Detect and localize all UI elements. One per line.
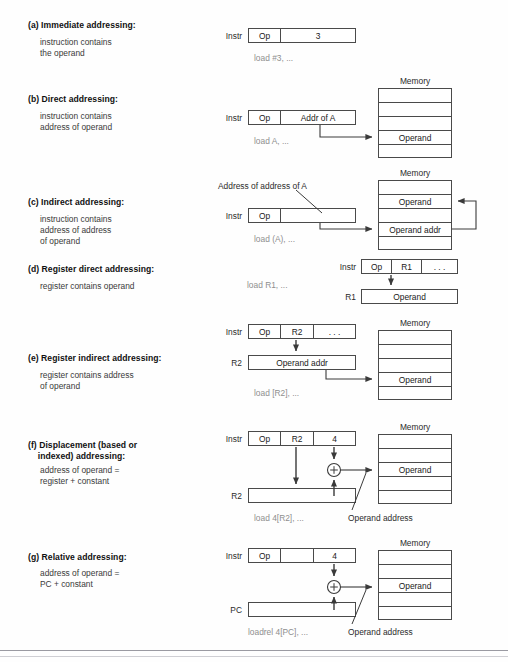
section-f-desc-line-2: register + constant bbox=[40, 476, 109, 487]
section-a-instr-label: Instr bbox=[198, 31, 242, 41]
section-d-code: load R1, ... bbox=[247, 280, 288, 290]
section-g-instr-label: Instr bbox=[198, 551, 242, 561]
section-g-register-box bbox=[248, 602, 356, 617]
section-g-memory-row-1 bbox=[379, 551, 451, 565]
section-c-callout-label: Address of address of A bbox=[218, 181, 307, 191]
section-e-title: (e) Register indirect addressing: bbox=[28, 353, 161, 364]
section-c-memory-row-1 bbox=[379, 181, 451, 195]
section-f-memory-box: Operand bbox=[378, 434, 452, 504]
section-b-instr-cell-op: Op bbox=[249, 111, 281, 124]
section-d-register-label: R1 bbox=[316, 292, 356, 302]
section-c-instr-cell-op: Op bbox=[249, 209, 281, 222]
section-c-memory-row-operand: Operand bbox=[379, 195, 451, 209]
section-f-memory-row-4 bbox=[379, 477, 451, 491]
section-g-memory-row-operand: Operand bbox=[379, 579, 451, 593]
section-e-memory-row-2 bbox=[379, 345, 451, 359]
section-g-code: loadrel 4[PC], ... bbox=[248, 627, 308, 637]
section-f-memory-row-5 bbox=[379, 491, 451, 505]
section-d-instr-cell-op: Op bbox=[362, 260, 392, 273]
section-e-instr-cell-rest: . . . bbox=[314, 325, 355, 338]
section-f-instruction-box: Op R2 4 bbox=[248, 431, 356, 446]
section-c-memory-box: Operand Operand addr bbox=[378, 180, 452, 250]
section-g-desc-line-1: address of operand = bbox=[40, 568, 119, 579]
section-g-instr-cell-disp: 4 bbox=[314, 549, 355, 562]
section-b-arrow-to-operand bbox=[320, 125, 372, 137]
section-c-memory-caption: Memory bbox=[378, 168, 452, 178]
section-e-arrow-register-to-operand bbox=[326, 370, 372, 379]
section-c-instr-label: Instr bbox=[198, 211, 242, 221]
section-b-desc-line-1: instruction contains bbox=[40, 111, 112, 122]
section-b-desc-line-2: address of operand bbox=[40, 122, 112, 133]
section-e-memory-row-1 bbox=[379, 331, 451, 345]
section-b-memory-caption: Memory bbox=[378, 76, 452, 86]
section-f-memory-row-operand: Operand bbox=[379, 463, 451, 477]
section-f-instr-cell-op: Op bbox=[249, 432, 281, 445]
section-e-desc-line-1: register contains address bbox=[40, 370, 134, 381]
section-f-operand-address-annotation: Operand address bbox=[348, 513, 413, 523]
section-c-title: (c) Indirect addressing: bbox=[28, 197, 124, 208]
figure-canvas: (a) Immediate addressing: instruction co… bbox=[0, 0, 508, 662]
section-b-memory-row-3 bbox=[379, 117, 451, 131]
section-b-memory-row-5 bbox=[379, 145, 451, 159]
section-d-register-value: Operand bbox=[362, 290, 457, 303]
section-g-adder-circle bbox=[328, 581, 341, 594]
section-d-desc-line-1: register contains operand bbox=[40, 281, 135, 292]
section-a-desc-line-2: the operand bbox=[40, 48, 85, 59]
section-g-instr-cell-op: Op bbox=[249, 549, 281, 562]
section-f-memory-row-1 bbox=[379, 435, 451, 449]
section-e-register-box: Operand addr bbox=[248, 355, 356, 370]
section-c-arrow-operand-addr-to-operand bbox=[452, 201, 476, 229]
section-b-code: load A, ... bbox=[254, 136, 289, 146]
section-g-memory-box: Operand bbox=[378, 550, 452, 620]
section-a-instr-cell-imm: 3 bbox=[281, 29, 355, 42]
section-c-code: load (A), ... bbox=[254, 234, 295, 244]
section-e-memory-row-3 bbox=[379, 359, 451, 373]
section-a-title: (a) Immediate addressing: bbox=[28, 20, 136, 31]
section-f-desc-line-1: address of operand = bbox=[40, 465, 119, 476]
section-d-instr-cell-rest: . . . bbox=[422, 260, 457, 273]
section-a-instr-cell-op: Op bbox=[249, 29, 281, 42]
section-f-instr-label: Instr bbox=[198, 434, 242, 444]
section-e-memory-row-operand: Operand bbox=[379, 373, 451, 387]
section-f-title: (f) Displacement (based or indexed) addr… bbox=[28, 440, 137, 462]
section-g-register-value bbox=[249, 603, 355, 616]
section-g-memory-caption: Memory bbox=[378, 538, 452, 548]
section-c-arrow-to-operand-addr bbox=[320, 223, 372, 229]
section-f-register-label: R2 bbox=[198, 491, 242, 501]
section-e-instr-label: Instr bbox=[198, 327, 242, 337]
section-c-instruction-box: Op bbox=[248, 208, 356, 223]
section-c-desc-line-3: of operand bbox=[40, 236, 80, 247]
section-g-memory-row-2 bbox=[379, 565, 451, 579]
section-d-instr-label: Instr bbox=[316, 262, 356, 272]
section-e-instruction-box: Op R2 . . . bbox=[248, 324, 356, 339]
section-a-instruction-box: Op 3 bbox=[248, 28, 356, 43]
section-g-desc-line-2: PC + constant bbox=[40, 579, 93, 590]
section-c-instr-cell-addr bbox=[281, 209, 355, 222]
section-f-instr-cell-disp: 4 bbox=[314, 432, 355, 445]
section-d-register-box: Operand bbox=[361, 289, 458, 304]
section-g-memory-row-5 bbox=[379, 607, 451, 621]
section-f-instr-cell-reg: R2 bbox=[281, 432, 314, 445]
section-e-register-label: R2 bbox=[198, 358, 242, 368]
section-a-desc-line-1: instruction contains bbox=[40, 37, 112, 48]
section-b-memory-row-2 bbox=[379, 103, 451, 117]
section-g-instr-cell-empty bbox=[281, 549, 314, 562]
section-f-adder-circle bbox=[328, 464, 341, 477]
section-e-code: load [R2], ... bbox=[254, 388, 299, 398]
section-f-memory-caption: Memory bbox=[378, 422, 452, 432]
section-b-memory-box: Operand bbox=[378, 88, 452, 158]
section-d-instr-cell-reg: R1 bbox=[392, 260, 422, 273]
section-f-memory-row-2 bbox=[379, 449, 451, 463]
section-f-register-box bbox=[248, 488, 356, 503]
section-c-desc-line-2: address of address bbox=[40, 225, 111, 236]
section-b-instr-cell-addr: Addr of A bbox=[281, 111, 355, 124]
section-a-code: load #3, ... bbox=[254, 53, 293, 63]
section-c-desc-line-1: instruction contains bbox=[40, 214, 112, 225]
page-rule-primary bbox=[0, 650, 508, 651]
section-e-instr-cell-op: Op bbox=[249, 325, 281, 338]
section-b-memory-row-1 bbox=[379, 89, 451, 103]
section-b-instruction-box: Op Addr of A bbox=[248, 110, 356, 125]
section-e-instr-cell-reg: R2 bbox=[281, 325, 314, 338]
section-d-instruction-box: Op R1 . . . bbox=[361, 259, 458, 274]
section-c-memory-row-operand-addr: Operand addr bbox=[379, 223, 451, 237]
